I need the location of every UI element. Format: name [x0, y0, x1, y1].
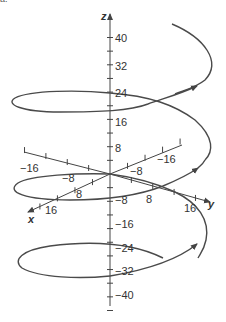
y-tick-label: −16	[20, 162, 39, 174]
z-tick-label: −24	[115, 242, 134, 254]
z-tick-label: 8	[115, 142, 121, 154]
y-tick-label: 16	[184, 202, 196, 214]
y-tick-label: −8	[62, 172, 75, 184]
z-tick-label: 40	[115, 32, 127, 44]
x-axis-label: x	[27, 213, 35, 225]
x-tick-label: 8	[76, 188, 82, 200]
z-tick-label: 24	[115, 87, 127, 99]
x-tick-label: −16	[157, 153, 176, 165]
helix-upper-loop	[12, 91, 211, 160]
helix-plot: z x y 40 32 24 16 8 −8 −16 −24 −32 −40 −…	[0, 0, 226, 322]
z-tick-label: −32	[115, 265, 134, 277]
z-tick-label: −40	[115, 289, 134, 301]
x-tick-label: −8	[130, 165, 143, 177]
z-axis-label: z	[100, 10, 107, 22]
z-tick-label: 16	[115, 116, 127, 128]
z-tick-label: −16	[115, 218, 134, 230]
helix-arrow-middle	[163, 168, 198, 186]
x-tick-label: 16	[45, 204, 57, 216]
z-tick-label: −8	[115, 194, 128, 206]
helix-arrow-top	[148, 86, 197, 104]
helix-bottom-loop	[18, 243, 163, 277]
y-axis-label: y	[207, 198, 215, 210]
y-tick-label: 8	[146, 193, 152, 205]
helix-top-segment	[172, 24, 212, 94]
helix-curve	[12, 24, 212, 277]
z-tick-label: 32	[115, 60, 127, 72]
